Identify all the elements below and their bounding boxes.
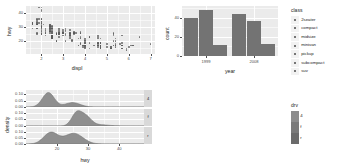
legend-drv-tick-label: f [300, 125, 301, 129]
scatter-y-tickmark [24, 41, 26, 42]
bar-y-tickmark [180, 56, 182, 57]
density-y-tick: 0.05 [11, 117, 23, 121]
scatter-point [75, 32, 77, 34]
legend-class-item[interactable]: suv [291, 67, 324, 76]
legend-class-item[interactable]: midsize [291, 33, 324, 42]
legend-point-glyph [294, 53, 296, 55]
scatter-point [84, 40, 86, 42]
density-y-tick: 0.00 [11, 142, 23, 146]
legend-class-item-label: compact [301, 26, 317, 30]
density-curve-f [26, 109, 144, 126]
density-y-tickmark [24, 132, 26, 133]
scatter-point [97, 36, 99, 38]
scatter-point [38, 18, 40, 20]
legend-class-key-icon [291, 68, 299, 76]
legend-class-item[interactable]: minivan [291, 41, 324, 50]
density-curve-4 [26, 90, 144, 107]
scatter-point [100, 42, 102, 44]
density-y-tick: 0.10 [11, 92, 23, 96]
bar-y-tick: 0 [168, 54, 179, 58]
scatter-x-tick: 6 [123, 57, 135, 61]
legend-drv-bar[interactable] [291, 111, 299, 144]
density-y-tick: 0.00 [11, 124, 23, 128]
scatter-point [84, 48, 86, 50]
scatter-point [110, 46, 112, 48]
bar-y-tickmark [180, 37, 182, 38]
density-x-tick: 30 [82, 147, 94, 151]
scatter-point [121, 42, 123, 44]
legend-class-item[interactable]: 2seater [291, 16, 324, 25]
legend-drv: drv 4fr [291, 103, 299, 144]
legend-class-item[interactable]: subcompact [291, 58, 324, 67]
legend-class-item[interactable]: compact [291, 24, 324, 33]
density-strip-r: r [144, 127, 152, 144]
bar-rect [247, 21, 261, 56]
density-y-tick: 0.10 [11, 111, 23, 115]
bar-rect [213, 45, 227, 56]
scatter-x-tickmark [129, 54, 130, 56]
legend-class-key-icon [291, 50, 299, 58]
legend-class-key-icon [291, 33, 299, 41]
density-y-tickmark [24, 144, 26, 145]
bar-rect [232, 14, 246, 56]
density-x-tick: 40 [113, 147, 125, 151]
density-strip-label: r [147, 134, 148, 138]
scatter-x-tick: 7 [145, 57, 157, 61]
density-y-tickmark [24, 113, 26, 114]
density-grid-y [26, 107, 144, 108]
bar-x-tickmark [254, 56, 255, 58]
scatter-x-tickmark [151, 54, 152, 56]
legend-drv-colorbar: 4fr [291, 111, 299, 144]
bar-rect [199, 10, 213, 56]
bar-grid-y [182, 56, 278, 57]
legend-point-glyph [294, 45, 296, 47]
legend-drv-segment [291, 133, 299, 144]
density-x-axis-title: hwy [80, 158, 89, 163]
scatter-point [121, 48, 123, 50]
bar-y-axis-title: count [165, 27, 170, 40]
scatter-point [71, 39, 73, 41]
scatter-point [36, 24, 38, 26]
legend-drv-title: drv [291, 103, 299, 108]
bar-x-tick: 2008 [243, 60, 265, 64]
bar-x-axis-title: year [225, 69, 235, 74]
scatter-y-tickmark [24, 13, 26, 14]
legend-point-glyph [294, 36, 296, 38]
scatter-x-tick: 3 [57, 57, 69, 61]
scatter-x-tickmark [41, 54, 42, 56]
figure-canvas: 203040 234567 hwy displ 02040 19992008 c… [0, 0, 351, 166]
scatter-point [71, 40, 73, 42]
density-y-tick: 0.00 [11, 105, 23, 109]
scatter-point [51, 25, 53, 27]
scatter-point [113, 32, 115, 34]
scatter-point [89, 42, 91, 44]
scatter-point [106, 46, 108, 48]
scatter-point [69, 36, 71, 38]
density-strip-label: 4 [147, 97, 149, 101]
scatter-y-axis-title: hwy [7, 27, 12, 36]
density-x-tickmark [119, 144, 120, 146]
scatter-point [73, 33, 75, 35]
density-strip-4: 4 [144, 90, 152, 107]
legend-class-key-icon [291, 16, 299, 24]
legend-class-item-label: subcompact [301, 61, 324, 65]
density-y-tickmark [24, 107, 26, 108]
legend-point-glyph [294, 70, 296, 72]
scatter-point [69, 32, 71, 34]
legend-class: class 2seatercompactmidsizeminivanpickup… [291, 8, 324, 76]
scatter-point [49, 29, 51, 31]
legend-class-item[interactable]: pickup [291, 50, 324, 59]
scatter-y-tick: 20 [12, 39, 23, 43]
legend-drv-segment [291, 122, 299, 133]
scatter-point [65, 29, 67, 31]
legend-drv-tick-labels: 4fr [300, 111, 320, 144]
legend-class-item-label: 2seater [301, 18, 315, 22]
scatter-point [36, 33, 38, 35]
scatter-point [58, 36, 60, 38]
legend-class-item-label: minivan [301, 43, 316, 47]
legend-class-key-icon [291, 42, 299, 50]
density-y-tickmark [24, 101, 26, 102]
scatter-x-tick: 4 [79, 57, 91, 61]
scatter-y-tick: 40 [12, 11, 23, 15]
density-x-tick: 20 [51, 147, 63, 151]
